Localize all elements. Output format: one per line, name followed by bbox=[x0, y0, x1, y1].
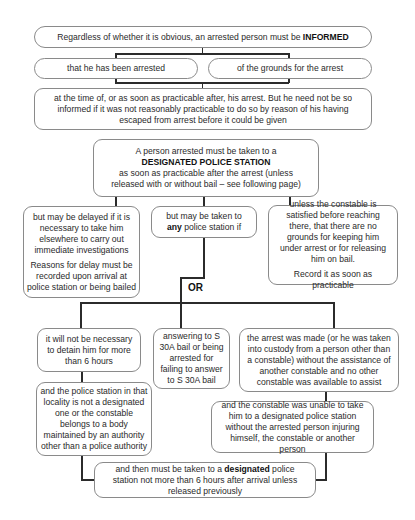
unless-record-text: Record it as soon as practicable bbox=[275, 269, 391, 291]
any-station-box: but may be taken to any police station i… bbox=[151, 206, 257, 238]
arrested-box: that he has been arrested bbox=[34, 58, 198, 79]
unable-text: and the constable was unable to take him… bbox=[218, 400, 367, 455]
any-post: police station if bbox=[182, 222, 241, 232]
six-hours-text: it will not be necessary to detain him f… bbox=[44, 334, 134, 367]
s30a-box: answering to S 30A bail or being arreste… bbox=[153, 328, 230, 389]
any-pre: but may be taken to bbox=[166, 211, 241, 221]
informed-emph: INFORMED bbox=[303, 32, 349, 42]
any-emph: any bbox=[167, 222, 182, 232]
connector bbox=[203, 237, 205, 278]
connector bbox=[81, 371, 83, 382]
unless-box: unless the constable is satisfied before… bbox=[268, 205, 398, 285]
unable-box: and the constable was unable to take him… bbox=[211, 401, 374, 453]
no-assist-text: the arrest was made (or he was taken int… bbox=[246, 333, 392, 388]
grounds-box: of the grounds for the arrest bbox=[208, 58, 372, 79]
final-emph: designated bbox=[224, 464, 269, 474]
informed-box: Regardless of whether it is obvious, an … bbox=[34, 26, 372, 48]
grounds-text: of the grounds for the arrest bbox=[237, 63, 343, 74]
arrested-text: that he has been arrested bbox=[67, 63, 165, 74]
connector bbox=[80, 302, 82, 328]
connector bbox=[333, 302, 335, 328]
six-hours-box: it will not be necessary to detain him f… bbox=[37, 328, 141, 372]
s30a-text: answering to S 30A bail or being arreste… bbox=[159, 331, 224, 386]
connector bbox=[115, 53, 289, 55]
delay-record-text: Reasons for delay must be recorded upon … bbox=[26, 260, 137, 293]
no-assist-box: the arrest was made (or he was taken int… bbox=[239, 328, 399, 392]
timing-text: at the time of, or as soon as practicabl… bbox=[43, 93, 363, 126]
unless-text: unless the constable is satisfied before… bbox=[275, 199, 391, 265]
locality-text: and the police station in that locality … bbox=[40, 386, 148, 452]
or-label: OR bbox=[188, 282, 203, 293]
delay-box: but may be delayed if it is necessary to… bbox=[23, 206, 140, 298]
informed-text: Regardless of whether it is obvious, an … bbox=[57, 32, 303, 42]
designated-line1: A person arrested must be taken to a bbox=[136, 146, 277, 157]
designated-line3: as soon as practicable after the arrest … bbox=[106, 168, 306, 190]
connector bbox=[80, 302, 335, 304]
designated-box: A person arrested must be taken to a DES… bbox=[93, 139, 319, 197]
designated-emph: DESIGNATED POLICE STATION bbox=[142, 157, 271, 167]
timing-box: at the time of, or as soon as practicabl… bbox=[34, 88, 372, 130]
delay-text: but may be delayed if it is necessary to… bbox=[26, 212, 137, 256]
connector bbox=[325, 452, 327, 480]
final-pre: and then must be taken to a bbox=[115, 464, 224, 474]
connector bbox=[180, 277, 205, 279]
final-box: and then must be taken to a designated p… bbox=[94, 462, 316, 498]
locality-box: and the police station in that locality … bbox=[36, 382, 152, 456]
connector bbox=[81, 455, 83, 480]
